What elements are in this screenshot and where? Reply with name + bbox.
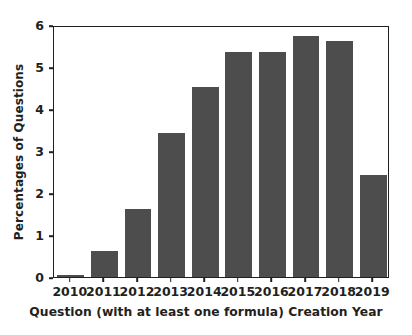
bar: [225, 52, 252, 277]
x-axis-tick-label: 2010: [52, 286, 87, 299]
x-axis-tick-label: 2017: [288, 286, 323, 299]
x-axis-tick-label: 2015: [220, 286, 255, 299]
y-axis-tick-label: 2: [0, 188, 44, 201]
plot-area: [53, 26, 389, 278]
y-axis-tick-label: 5: [0, 62, 44, 75]
bar: [259, 52, 286, 277]
bar: [293, 36, 320, 278]
bar: [360, 175, 387, 277]
x-axis-tick-label: 2012: [120, 286, 155, 299]
x-axis-tick-label: 2014: [187, 286, 222, 299]
x-axis-tick-mark: [371, 278, 373, 282]
bar: [57, 275, 84, 277]
bar: [192, 87, 219, 277]
bar: [125, 209, 152, 277]
bar: [326, 41, 353, 277]
x-axis-tick-mark: [338, 278, 340, 282]
x-axis-label: Question (with at least one formula) Cre…: [0, 305, 412, 319]
bar-series: [54, 27, 388, 277]
x-axis-tick-label: 2013: [153, 286, 188, 299]
bar: [158, 133, 185, 277]
x-axis-tick-mark: [136, 278, 138, 282]
y-axis-tick-label: 1: [0, 230, 44, 243]
x-axis-tick-mark: [304, 278, 306, 282]
bar: [91, 251, 118, 277]
x-axis-tick-mark: [103, 278, 105, 282]
x-axis-tick-mark: [69, 278, 71, 282]
y-axis-tick-label: 3: [0, 146, 44, 159]
y-axis-tick-label: 6: [0, 20, 44, 33]
x-axis-tick-label: 2018: [321, 286, 356, 299]
x-axis-tick-label: 2019: [355, 286, 390, 299]
bar-chart-figure: Percentages of Questions 0123456 2010201…: [0, 0, 412, 335]
x-axis-tick-mark: [237, 278, 239, 282]
x-axis-tick-mark: [203, 278, 205, 282]
y-axis-tick-label: 4: [0, 104, 44, 117]
x-axis-tick-mark: [170, 278, 172, 282]
x-axis-tick-mark: [271, 278, 273, 282]
y-axis-tick-label: 0: [0, 272, 44, 285]
x-axis-tick-label: 2011: [86, 286, 121, 299]
x-axis-tick-label: 2016: [254, 286, 289, 299]
